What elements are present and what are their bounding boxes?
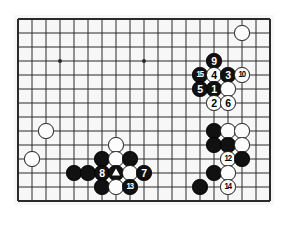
stone-move-number: 8 [99, 167, 104, 178]
board-stone-white [220, 165, 235, 180]
board-stone-black [220, 137, 235, 152]
move-stone-1: 1 [206, 81, 221, 96]
stone-move-number: 13 [127, 182, 134, 191]
board-stone-white [108, 137, 123, 152]
board-stone-white [234, 137, 249, 152]
move-stone-3: 3 [220, 67, 235, 82]
board-stone-white [108, 179, 123, 194]
board-stone-black [80, 165, 95, 180]
stone-move-number: 3 [225, 69, 230, 80]
move-stone-7: 7 [136, 165, 151, 180]
stone-move-number: 12 [225, 154, 232, 163]
board-stone-white [234, 123, 249, 138]
stone-move-number: 1 [211, 83, 216, 94]
stone-move-number: 4 [211, 69, 216, 80]
go-board-diagram: 9154310512612871314 [0, 0, 284, 229]
board-stone-black [206, 165, 221, 180]
triangle-marker-icon [112, 169, 120, 176]
stone-move-number: 6 [225, 97, 230, 108]
board-stone-white [220, 123, 235, 138]
move-stone-13: 13 [122, 179, 137, 194]
board-stone-black [234, 151, 249, 166]
move-stone-8: 8 [94, 165, 109, 180]
move-stone-10: 10 [234, 67, 249, 82]
board-stone-black [94, 179, 109, 194]
move-stone-4: 4 [206, 67, 221, 82]
stone-layer: 9154310512612871314 [0, 0, 284, 229]
move-stone-5: 5 [192, 81, 207, 96]
board-stone-white [108, 151, 123, 166]
board-stone-black [66, 165, 81, 180]
board-stone-white [122, 165, 137, 180]
move-stone-9: 9 [206, 53, 221, 68]
board-stone-black [206, 123, 221, 138]
stone-move-number: 15 [197, 70, 204, 79]
move-stone-14: 14 [220, 179, 235, 194]
stone-move-number: 7 [141, 167, 146, 178]
stone-move-number: 9 [211, 55, 216, 66]
board-stone-white [24, 151, 39, 166]
board-stone-black [94, 151, 109, 166]
move-stone-2: 2 [206, 95, 221, 110]
stone-move-number: 10 [239, 70, 246, 79]
board-stone-white [234, 25, 249, 40]
move-stone-12: 12 [220, 151, 235, 166]
stone-move-number: 14 [225, 182, 232, 191]
stone-move-number: 2 [211, 97, 216, 108]
board-stone-black [192, 179, 207, 194]
move-stone-15: 15 [192, 67, 207, 82]
board-stone-black [206, 137, 221, 152]
marked-stone-triangle [108, 165, 123, 180]
move-stone-6: 6 [220, 95, 235, 110]
board-stone-white [38, 123, 53, 138]
board-stone-black [122, 151, 137, 166]
stone-move-number: 5 [197, 83, 202, 94]
board-stone-white [220, 81, 235, 96]
